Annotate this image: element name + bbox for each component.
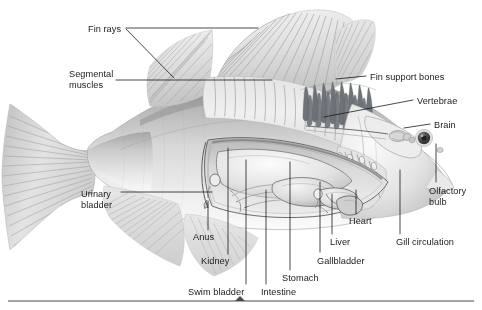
label-gill-circulation: Gill circulation [396,237,454,248]
label-olfactory-bulb-line-1: Olfactory [429,186,466,197]
label-fin-support-bones-line-1: Fin support bones [370,72,444,83]
label-fin-rays-line-1: Fin rays [88,24,121,35]
eye [415,129,432,146]
label-segmental-muscles: Segmentalmuscles [69,69,113,92]
label-gallbladder-line-1: Gallbladder [317,256,365,267]
label-fin-rays: Fin rays [88,24,121,35]
label-kidney-line-1: Kidney [201,256,229,267]
caudal-fin-group [2,104,95,250]
label-intestine-line-1: Intestine [261,287,296,298]
label-urinary-bladder: Urinarybladder [81,189,112,212]
label-kidney: Kidney [201,256,229,267]
label-liver: Liver [330,237,350,248]
label-stomach-line-1: Stomach [282,273,319,284]
label-olfactory-bulb: Olfactorybulb [429,186,466,209]
label-vertebrae: Vertebrae [417,96,457,107]
olfactory-bulb-organ [437,147,443,152]
label-gallbladder: Gallbladder [317,256,365,267]
label-swim-bladder: Swim bladder [188,287,244,298]
fish-anatomy-figure [0,0,482,310]
label-intestine: Intestine [261,287,296,298]
label-liver-line-1: Liver [330,237,350,248]
label-vertebrae-line-1: Vertebrae [417,96,457,107]
label-gill-circulation-line-1: Gill circulation [396,237,454,248]
label-anus-line-1: Anus [193,232,214,243]
label-swim-bladder-line-1: Swim bladder [188,287,244,298]
label-urinary-bladder-line-2: bladder [81,200,112,211]
label-fin-support-bones: Fin support bones [370,72,444,83]
label-urinary-bladder-line-1: Urinary [81,189,112,200]
label-heart: Heart [349,216,372,227]
label-anus: Anus [193,232,214,243]
leader-brain [404,124,430,128]
label-brain-line-1: Brain [434,120,456,131]
label-segmental-muscles-line-1: Segmental [69,69,113,80]
label-stomach: Stomach [282,273,319,284]
label-olfactory-bulb-line-2: bulb [429,197,466,208]
label-heart-line-1: Heart [349,216,372,227]
label-segmental-muscles-line-2: muscles [69,80,113,91]
label-brain: Brain [434,120,456,131]
